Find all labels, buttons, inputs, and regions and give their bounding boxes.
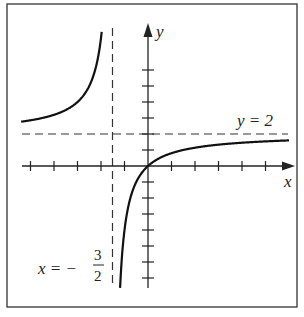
y-axis <box>142 23 154 288</box>
y-axis-label: y <box>154 22 164 41</box>
fraction-numerator: 3 <box>94 247 102 263</box>
horizontal-asymptote-label: y = 2 <box>235 111 274 130</box>
x-axis-label: x <box>283 172 292 191</box>
vertical-asymptote-label: x = − <box>37 259 77 278</box>
y-axis-arrow-icon <box>144 23 153 37</box>
fraction-denominator: 2 <box>94 268 102 284</box>
x-axis-arrow-icon <box>282 162 295 171</box>
graph-figure: y x y = 2 x = − 3 2 <box>0 0 304 317</box>
curve-left-branch <box>21 32 102 122</box>
x-axis <box>22 161 295 171</box>
